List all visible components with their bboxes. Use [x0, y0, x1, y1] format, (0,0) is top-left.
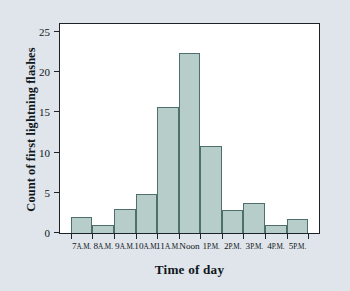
- bar: [71, 217, 93, 233]
- bar: [265, 225, 287, 233]
- bar: [114, 209, 136, 233]
- x-axis-tick: [200, 233, 201, 239]
- y-axis-tick: 25: [54, 31, 60, 32]
- bar: [243, 203, 265, 233]
- bar: [157, 107, 179, 233]
- x-axis-tick-label: 11A.M.: [156, 241, 180, 251]
- y-axis-tick-label: 15: [39, 106, 50, 118]
- y-axis-tick-label: 0: [45, 227, 51, 239]
- x-axis-tick-label: Noon: [179, 241, 199, 251]
- x-axis-tick: [92, 233, 93, 239]
- x-axis-tick-label: 4P.M.: [267, 241, 284, 251]
- y-axis-tick: 15: [54, 111, 60, 112]
- x-axis-tick-label: 9A.M.: [115, 241, 134, 251]
- y-axis-tick-label: 25: [39, 26, 50, 38]
- x-axis-tick-label: 3P.M.: [246, 241, 263, 251]
- y-axis-tick-label: 20: [39, 66, 50, 78]
- x-axis-tick: [265, 233, 266, 239]
- y-axis-title: Count of first lightning flashes: [24, 15, 39, 245]
- x-axis-tick: [71, 233, 72, 239]
- x-axis-tick-label: 5P.M.: [289, 241, 306, 251]
- bar: [92, 225, 114, 233]
- x-axis-tick: [308, 233, 309, 239]
- bar: [136, 194, 158, 233]
- y-axis-tick: 10: [54, 152, 60, 153]
- x-axis-tick: [287, 233, 288, 239]
- plot-area: 0510152025 7A.M.8A.M.9A.M.10A.M.11A.M.No…: [59, 23, 320, 234]
- x-axis-tick: [243, 233, 244, 239]
- x-axis-tick-label: 10A.M.: [134, 241, 158, 251]
- y-axis-tick: 0: [54, 232, 60, 233]
- x-axis-tick: [136, 233, 137, 239]
- y-axis-tick: 5: [54, 192, 60, 193]
- y-axis-tick: 20: [54, 71, 60, 72]
- bar: [287, 219, 309, 233]
- x-axis-tick: [222, 233, 223, 239]
- x-axis-tick: [114, 233, 115, 239]
- x-axis-title: Time of day: [59, 262, 320, 278]
- y-axis-tick-label: 10: [39, 147, 50, 159]
- bar: [222, 210, 244, 233]
- bar: [179, 53, 201, 233]
- histogram-figure: Count of first lightning flashes 0510152…: [0, 0, 350, 291]
- x-axis-tick-label: 8A.M.: [93, 241, 112, 251]
- bar: [200, 146, 222, 233]
- x-axis-tick-label: 1P.M.: [202, 241, 219, 251]
- x-axis-tick: [179, 233, 180, 239]
- y-axis-tick-label: 5: [45, 187, 51, 199]
- bar-series: [60, 24, 319, 233]
- x-axis-tick: [157, 233, 158, 239]
- x-axis-tick-label: 2P.M.: [224, 241, 241, 251]
- x-axis-tick-label: 7A.M.: [72, 241, 91, 251]
